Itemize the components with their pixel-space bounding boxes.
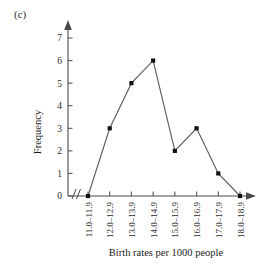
x-category-label: 14.0–14.9 (149, 202, 159, 239)
x-axis-break-icon (72, 189, 81, 199)
data-point-marker (238, 194, 242, 198)
y-tick-label: 7 (57, 33, 62, 43)
y-tick-label: 0 (57, 191, 62, 201)
data-point-marker (216, 171, 220, 175)
y-tick-label: 3 (57, 124, 62, 134)
x-category-label: 16.0–16.9 (192, 202, 202, 239)
y-tick-label: 1 (57, 169, 62, 179)
frequency-polygon-plot: 0 1 2 3 4 5 6 7 (0, 0, 272, 266)
x-axis-category-labels: 11.0–11.9 12.0–12.9 13.0–13.9 14.0–14.9 … (84, 202, 246, 239)
x-category-label: 13.0–13.9 (127, 202, 137, 239)
x-axis-arrow-icon (246, 192, 256, 200)
x-category-label: 15.0–15.9 (170, 202, 180, 239)
data-point-marker (173, 149, 177, 153)
chart-figure: (c) 0 1 2 3 4 5 6 (0, 0, 272, 266)
x-category-label: 12.0–12.9 (105, 202, 115, 239)
data-point-markers (86, 58, 242, 198)
y-tick-label: 4 (57, 101, 62, 111)
y-axis-ticks: 0 1 2 3 4 5 6 7 (57, 33, 72, 201)
x-category-label: 11.0–11.9 (84, 202, 94, 238)
y-axis-title: Frequency (32, 109, 43, 154)
y-axis-arrow-icon (64, 20, 72, 30)
x-axis-ticks (88, 192, 240, 197)
x-axis-title: Birth rates per 1000 people (109, 247, 224, 258)
y-tick-label: 5 (57, 79, 62, 89)
y-tick-label: 2 (57, 146, 62, 156)
y-tick-label: 6 (57, 56, 62, 66)
data-point-marker (129, 81, 133, 85)
data-point-marker (151, 58, 155, 62)
x-category-label: 17.0–17.9 (214, 202, 224, 239)
data-point-marker (86, 194, 90, 198)
x-category-label: 18.0–18.9 (236, 202, 246, 239)
data-point-marker (194, 126, 198, 130)
data-point-marker (108, 126, 112, 130)
